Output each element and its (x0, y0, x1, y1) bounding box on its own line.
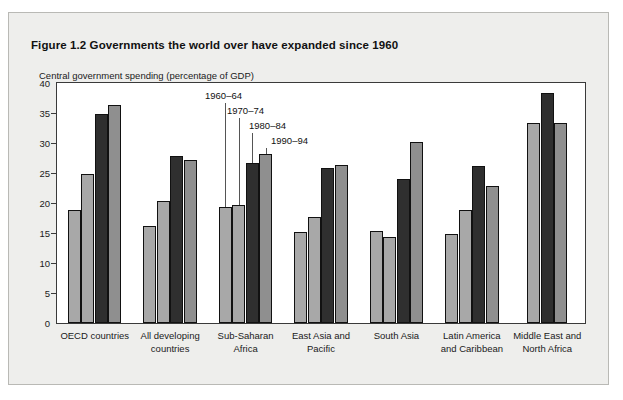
bar (472, 166, 485, 323)
category-label: Middle East andNorth Africa (497, 329, 598, 355)
y-tick-label: 30 (39, 138, 50, 149)
bar (246, 163, 259, 323)
plot-area (57, 83, 585, 323)
y-tick-label: 5 (45, 288, 50, 299)
bar (410, 142, 423, 323)
bar (143, 226, 156, 323)
y-tick-mark (51, 233, 56, 234)
bar-group (445, 83, 499, 323)
bar-group (68, 83, 122, 323)
figure-title: Figure 1.2 Governments the world over ha… (31, 39, 398, 51)
bar (445, 234, 458, 323)
y-tick-mark (51, 293, 56, 294)
bar-group (294, 83, 348, 323)
y-tick-label: 20 (39, 198, 50, 209)
category-label-line: Middle East and (497, 329, 598, 342)
y-tick-label: 35 (39, 108, 50, 119)
bar (486, 186, 499, 323)
bar (335, 165, 348, 323)
bar (308, 217, 321, 323)
bar (81, 174, 94, 323)
y-axis-tick-labels: 0510152025303540 (22, 83, 50, 323)
bar (184, 160, 197, 323)
category-label-line: North Africa (497, 342, 598, 355)
y-tick-mark (51, 263, 56, 264)
bar (294, 232, 307, 323)
y-tick-mark (51, 143, 56, 144)
bar (259, 154, 272, 323)
x-axis-category-labels: OECD countriesAll developingcountriesSub… (57, 329, 585, 375)
bar (157, 201, 170, 323)
y-tick-label: 40 (39, 78, 50, 89)
bar (68, 210, 81, 323)
y-tick-label: 0 (45, 318, 50, 329)
y-tick-mark (51, 173, 56, 174)
bar (397, 179, 410, 323)
y-tick-mark (51, 113, 56, 114)
bar-group (143, 83, 197, 323)
bar (527, 123, 540, 323)
bar (170, 156, 183, 323)
bar-group (370, 83, 424, 323)
y-tick-label: 10 (39, 258, 50, 269)
bar (554, 123, 567, 323)
bar (541, 93, 554, 323)
bar (95, 114, 108, 323)
bar (383, 237, 396, 323)
y-tick-mark (51, 203, 56, 204)
y-tick-label: 15 (39, 228, 50, 239)
y-axis-caption: Central government spending (percentage … (39, 70, 254, 81)
bar (370, 231, 383, 323)
category-label-line: Pacific (270, 342, 371, 355)
bar (459, 210, 472, 323)
bar (321, 168, 334, 323)
bar-group (527, 83, 567, 323)
bar (219, 207, 232, 323)
bar (108, 105, 121, 323)
bar-group (219, 83, 273, 323)
bar (232, 205, 245, 323)
y-tick-label: 25 (39, 168, 50, 179)
